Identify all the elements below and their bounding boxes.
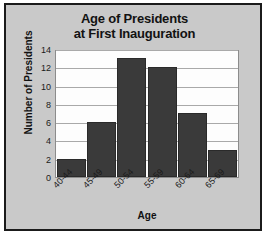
y-axis-tick-label: 12 [31, 63, 51, 73]
chart-figure: Age of Presidents at First Inauguration … [4, 3, 262, 231]
y-axis-tick-label: 8 [31, 100, 51, 110]
y-axis-tick-labels: 14121086420 [29, 50, 51, 178]
x-axis-tick-slot: 40-44 [56, 180, 86, 212]
y-axis-tick-label: 2 [31, 155, 51, 165]
chart-title-line-1: Age of Presidents [32, 11, 237, 26]
x-axis-title: Age [55, 210, 239, 221]
y-axis-tick-label: 4 [31, 136, 51, 146]
y-axis-tick-label: 0 [31, 173, 51, 183]
x-axis-tick-slot: 65-69 [208, 180, 238, 212]
chart-title: Age of Presidents at First Inauguration [32, 11, 237, 41]
x-axis-tick-slot: 55-59 [147, 180, 177, 212]
x-axis-tick-slot: 60-64 [178, 180, 208, 212]
chart-title-line-2: at First Inauguration [32, 26, 237, 41]
y-axis-tick-label: 10 [31, 82, 51, 92]
y-axis-tick-label: 6 [31, 118, 51, 128]
x-axis-tick-slot: 45-49 [86, 180, 116, 212]
y-axis-tick-label: 14 [31, 45, 51, 55]
x-axis-tick-slot: 50-54 [117, 180, 147, 212]
x-axis-tick-labels: 40-4445-4950-5455-5960-6465-69 [55, 180, 239, 212]
